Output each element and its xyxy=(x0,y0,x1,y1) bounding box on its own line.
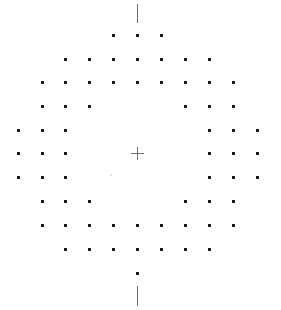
test-point-dot xyxy=(112,81,115,84)
test-point-dot xyxy=(136,224,139,227)
fixation-cross-icon xyxy=(131,147,144,160)
test-point-dot xyxy=(112,224,115,227)
test-point-dot xyxy=(232,200,235,203)
visual-field-grid xyxy=(0,0,281,310)
test-point-dot xyxy=(208,105,211,108)
test-point-dot xyxy=(88,248,91,251)
test-point-dot xyxy=(208,248,211,251)
test-point-dot xyxy=(208,200,211,203)
test-point-dot xyxy=(184,58,187,61)
test-point-dot xyxy=(17,129,20,132)
test-point-dot xyxy=(112,248,115,251)
test-point-dot xyxy=(64,58,67,61)
test-point-dot xyxy=(232,152,235,155)
test-point-dot xyxy=(88,105,91,108)
test-point-dot xyxy=(64,105,67,108)
test-point-dot xyxy=(232,105,235,108)
test-point-dot xyxy=(41,129,44,132)
test-point-dot xyxy=(184,200,187,203)
test-point-dot xyxy=(184,248,187,251)
test-point-dot xyxy=(160,58,163,61)
test-point-dot xyxy=(208,129,211,132)
test-point-dot xyxy=(64,81,67,84)
faint-artifact xyxy=(110,174,112,176)
test-point-dot xyxy=(41,81,44,84)
test-point-dot xyxy=(41,224,44,227)
test-point-dot xyxy=(64,152,67,155)
test-point-dot xyxy=(64,200,67,203)
test-point-dot xyxy=(64,176,67,179)
test-point-dot xyxy=(208,176,211,179)
test-point-dot xyxy=(160,248,163,251)
test-point-dot xyxy=(136,272,139,275)
test-point-dot xyxy=(208,58,211,61)
test-point-dot xyxy=(160,34,163,37)
test-point-dot xyxy=(232,224,235,227)
test-point-dot xyxy=(41,105,44,108)
test-point-dot xyxy=(184,81,187,84)
test-point-dot xyxy=(41,152,44,155)
test-point-dot xyxy=(256,152,259,155)
test-point-dot xyxy=(64,248,67,251)
test-point-dot xyxy=(208,81,211,84)
test-point-dot xyxy=(232,176,235,179)
test-point-dot xyxy=(64,129,67,132)
test-point-dot xyxy=(41,200,44,203)
test-point-dot xyxy=(64,224,67,227)
test-point-dot xyxy=(88,224,91,227)
test-point-dot xyxy=(184,224,187,227)
test-point-dot xyxy=(256,176,259,179)
test-point-dot xyxy=(136,81,139,84)
test-point-dot xyxy=(112,58,115,61)
test-point-dot xyxy=(232,129,235,132)
test-point-dot xyxy=(184,105,187,108)
test-point-dot xyxy=(136,58,139,61)
test-point-dot xyxy=(17,176,20,179)
test-point-dot xyxy=(160,81,163,84)
test-point-dot xyxy=(232,81,235,84)
test-point-dot xyxy=(88,200,91,203)
test-point-dot xyxy=(41,176,44,179)
test-point-dot xyxy=(136,34,139,37)
test-point-dot xyxy=(112,34,115,37)
test-point-dot xyxy=(17,152,20,155)
test-point-dot xyxy=(88,81,91,84)
test-point-dot xyxy=(160,224,163,227)
test-point-dot xyxy=(88,58,91,61)
test-point-dot xyxy=(136,248,139,251)
test-point-dot xyxy=(208,224,211,227)
test-point-dot xyxy=(208,152,211,155)
test-point-dot xyxy=(256,129,259,132)
